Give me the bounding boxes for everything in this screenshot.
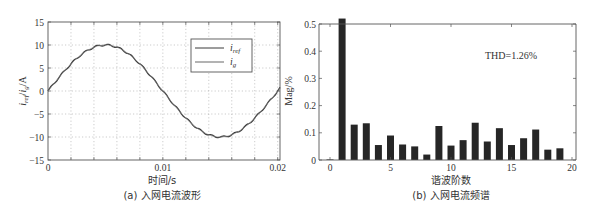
y-tick-label: 15 [35, 18, 45, 28]
bar-order-5 [387, 136, 394, 160]
bar-order-1 [339, 19, 346, 160]
bar-order-11 [460, 140, 467, 160]
bar-order-2 [351, 125, 358, 160]
bar-order-19 [556, 148, 563, 160]
waveform-chart: 151050−5−10−1500.010.02 iref ig iref/ig/… [17, 18, 286, 202]
x-tick-label: 0 [328, 163, 333, 173]
bar-order-9 [435, 126, 442, 160]
bar-order-12 [472, 123, 479, 160]
y-tick-label: −5 [34, 110, 44, 120]
bar-order-17 [532, 130, 539, 160]
bars [327, 19, 564, 160]
caption-a: (a) 入网电流波形 [123, 189, 200, 201]
thd-annotation: THD=1.26% [485, 50, 537, 61]
legend: iref ig [191, 39, 252, 72]
bar-order-18 [544, 150, 551, 160]
bar-order-16 [520, 138, 527, 160]
caption-b: (b) 入网电流频谱 [412, 189, 489, 201]
bar-order-14 [496, 128, 503, 160]
bar-order-4 [375, 145, 382, 160]
y-tick-label: 10 [35, 41, 45, 51]
y-axis-label: iref/ig/A [17, 76, 30, 106]
y-tick-label: 0 [311, 156, 316, 166]
legend-box [191, 39, 252, 72]
bar-order-13 [484, 142, 491, 160]
x-tick-label: 20 [567, 163, 577, 173]
y-tick-label: 5 [39, 64, 44, 74]
y-tick-label: −10 [29, 133, 44, 143]
x-tick-label: 0.02 [269, 163, 286, 173]
y-tick-label: 0.3 [304, 74, 316, 84]
y-tick-label: 0 [39, 87, 44, 97]
y-tick-label: 0.2 [304, 101, 316, 111]
spectrum-chart: 0.50.40.30.20.1005101520 THD=1.26% Mag/%… [283, 19, 577, 201]
y-tick-label: 0.5 [304, 20, 316, 30]
bar-order-3 [363, 123, 370, 160]
x-tick-label: 10 [446, 163, 456, 173]
y-tick-label: −15 [29, 156, 44, 166]
bar-order-8 [423, 155, 430, 160]
figure: 151050−5−10−1500.010.02 iref ig iref/ig/… [0, 0, 592, 215]
x-axis-label: 时间/s [148, 174, 177, 186]
y-tick-label: 0.1 [304, 128, 316, 138]
x-tick-label: 5 [388, 163, 393, 173]
x-axis-label: 谐波阶数 [431, 174, 471, 186]
bar-order-6 [399, 144, 406, 160]
x-tick-label: 0 [46, 163, 51, 173]
y-axis-label: Mag/% [283, 76, 294, 105]
x-tick-label: 15 [507, 163, 517, 173]
x-tick-label: 0.01 [155, 163, 172, 173]
bar-order-7 [411, 146, 418, 160]
y-tick-label: 0.4 [304, 47, 316, 57]
